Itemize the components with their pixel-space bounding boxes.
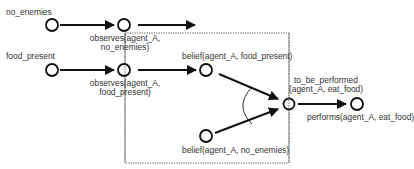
node-belief-food-present — [200, 64, 212, 76]
label-observes-food-2: food_present) — [99, 87, 151, 97]
node-food-present — [46, 64, 58, 76]
label-to-be-performed-2: (agent_A, eat_food) — [289, 84, 363, 94]
label-belief-no-enemies: belief(agent_A, no_enemies) — [182, 145, 289, 155]
label-no-enemies: no_enemies — [6, 7, 52, 17]
label-food-present: food_present — [6, 51, 55, 61]
label-belief-food-present: belief(agent_A, food_present) — [182, 51, 292, 61]
node-no-enemies — [46, 19, 58, 31]
edge-belief-food-to-tbp — [219, 74, 278, 99]
node-performs — [351, 98, 363, 110]
node-observes-no-enemies — [118, 19, 130, 31]
edge-belief-enemies-to-tbp — [215, 109, 278, 133]
node-observes-food-present — [118, 64, 130, 76]
label-performs: performs(agent_A, eat_food) — [307, 112, 414, 122]
node-belief-no-enemies — [200, 130, 212, 142]
label-observes-no-enemies-2: no_enemies) — [101, 42, 149, 52]
